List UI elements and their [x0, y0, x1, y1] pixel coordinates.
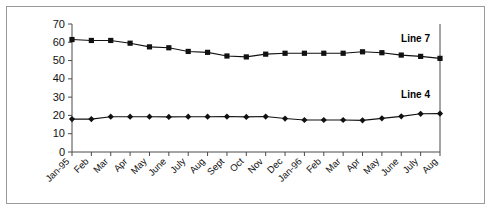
y-tick-label: 10 — [53, 127, 65, 139]
series-marker-diamond — [166, 114, 172, 120]
y-tick-label: 0 — [59, 146, 65, 158]
series-marker-square — [205, 50, 210, 55]
series-marker-square — [224, 53, 229, 58]
y-tick-label: 50 — [53, 54, 65, 66]
series-marker-square — [244, 54, 249, 59]
y-tick-label: 70 — [53, 18, 65, 30]
x-tick-label: Mar — [323, 156, 342, 175]
x-tick-label: May — [128, 155, 149, 176]
series-marker-square — [302, 51, 307, 56]
series-marker-diamond — [418, 111, 424, 117]
series-label-line-7: Line 7 — [401, 33, 430, 44]
x-tick-label: Apr — [111, 156, 129, 174]
series-marker-diamond — [301, 117, 307, 123]
x-tick-label: July — [168, 155, 188, 175]
series-marker-square — [437, 56, 442, 61]
x-tick-label: Sept — [205, 155, 227, 177]
series-line-1 — [72, 40, 440, 59]
series-marker-square — [89, 38, 94, 43]
series-marker-diamond — [359, 117, 365, 123]
series-marker-square — [418, 54, 423, 59]
series-marker-diamond — [379, 115, 385, 121]
series-marker-diamond — [69, 116, 75, 122]
series-marker-diamond — [88, 116, 94, 122]
x-tick-label: July — [400, 155, 420, 175]
series-marker-square — [147, 44, 152, 49]
series-marker-square — [263, 52, 268, 57]
series-marker-diamond — [243, 114, 249, 120]
series-marker-diamond — [398, 113, 404, 119]
y-tick-label: 20 — [53, 109, 65, 121]
series-marker-diamond — [146, 114, 152, 120]
x-tick-label: Feb — [304, 156, 323, 175]
series-marker-square — [399, 52, 404, 57]
x-tick-label: Feb — [71, 156, 90, 175]
series-marker-square — [341, 51, 346, 56]
series-marker-square — [186, 49, 191, 54]
series-line-2 — [72, 114, 440, 121]
series-marker-diamond — [204, 114, 210, 120]
series-marker-diamond — [282, 115, 288, 121]
series-label-line-4: Line 4 — [401, 89, 430, 100]
series-marker-square — [360, 49, 365, 54]
series-marker-diamond — [263, 113, 269, 119]
series-marker-square — [282, 51, 287, 56]
series-marker-diamond — [437, 111, 443, 117]
series-marker-diamond — [321, 117, 327, 123]
series-marker-square — [108, 38, 113, 43]
screenshot-canvas: 010203040506070Jan-95FebMarAprMayJuneJul… — [0, 0, 493, 212]
series-marker-square — [321, 51, 326, 56]
x-tick-label: Nov — [245, 155, 265, 175]
series-marker-square — [128, 41, 133, 46]
series-marker-square — [166, 45, 171, 50]
x-tick-label: Jan-95 — [43, 156, 71, 184]
series-marker-diamond — [185, 114, 191, 120]
series-marker-square — [379, 50, 384, 55]
chart-figure: 010203040506070Jan-95FebMarAprMayJuneJul… — [0, 0, 493, 212]
series-marker-diamond — [224, 113, 230, 119]
x-tick-label: June — [146, 156, 168, 178]
y-tick-label: 30 — [53, 91, 65, 103]
x-tick-label: Aug — [187, 156, 207, 176]
x-tick-label: June — [378, 156, 400, 178]
x-tick-label: Apr — [344, 156, 362, 174]
y-tick-label: 40 — [53, 72, 65, 84]
x-tick-label: Oct — [227, 155, 245, 173]
series-marker-diamond — [108, 114, 114, 120]
x-tick-label: Mar — [91, 156, 110, 175]
line-chart: 010203040506070Jan-95FebMarAprMayJuneJul… — [0, 0, 493, 212]
series-marker-diamond — [340, 117, 346, 123]
series-marker-square — [69, 37, 74, 42]
x-tick-label: May — [361, 155, 382, 176]
y-tick-label: 60 — [53, 36, 65, 48]
series-marker-diamond — [127, 114, 133, 120]
x-tick-label: Aug — [420, 156, 440, 176]
